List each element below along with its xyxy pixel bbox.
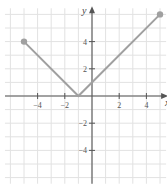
x-tick-label: 2 <box>117 101 121 110</box>
endpoint-dot <box>21 38 27 44</box>
x-tick-label: 4 <box>144 101 148 110</box>
y-tick-label: 4 <box>83 38 87 47</box>
endpoint-dot <box>157 11 163 17</box>
y-axis-arrow-icon <box>89 6 95 13</box>
x-axis-label: x <box>164 97 167 108</box>
x-tick-label: −4 <box>33 101 42 110</box>
x-tick-label: −2 <box>61 101 70 110</box>
y-tick-label: 2 <box>83 65 87 74</box>
y-tick-label: −2 <box>78 119 87 128</box>
function-graph: −4−22442−2−4 x y <box>0 0 167 188</box>
y-axis-label: y <box>81 5 87 16</box>
y-tick-label: −4 <box>78 146 87 155</box>
